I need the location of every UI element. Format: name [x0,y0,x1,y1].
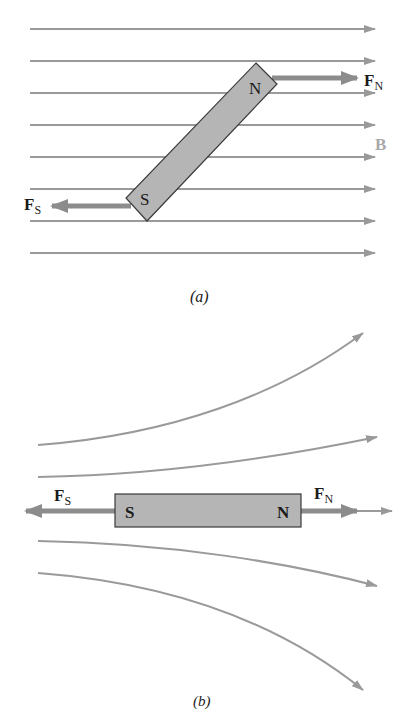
magnet-north-label: N [249,79,261,98]
force-symbol: F [314,484,324,503]
force-subscript: S [64,494,71,508]
force-south-label: FS [24,195,41,217]
force-north-label: FN [314,484,333,506]
force-north-label: FN [364,71,383,93]
magnet-south-label: S [140,190,149,209]
field-b-label: B [375,135,386,154]
magnet-in-field-diagram: N S FN FS B (a) S N FS [0,0,412,725]
bar-magnet-horizontal [115,494,301,527]
caption-b: (b) [193,693,211,710]
magnet-south-label: S [125,503,134,522]
field-line [38,573,363,690]
force-south-label: FS [54,486,71,508]
panel-b: S N FS FN (b) [26,333,392,710]
force-symbol: F [364,71,374,90]
field-line [38,333,363,445]
force-symbol: F [54,486,64,505]
force-subscript: N [324,492,333,506]
force-subscript: N [374,79,383,93]
caption-a: (a) [190,288,209,306]
force-subscript: S [34,203,41,217]
magnet-north-label: N [277,503,290,522]
field-line [38,437,377,477]
force-symbol: F [24,195,34,214]
panel-a: N S FN FS B (a) [24,29,386,306]
